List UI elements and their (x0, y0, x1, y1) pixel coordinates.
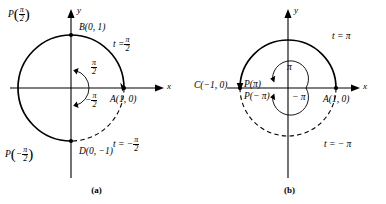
point-label-b: B(0, 1) (79, 23, 105, 33)
arc-label-text: t = − (113, 139, 133, 149)
x-axis (10, 84, 164, 91)
arc-label-text: t = (113, 39, 124, 49)
x-axis-label-a: x (167, 82, 171, 91)
param-point-label-neg-pi-over-2: P(−π2) (5, 146, 33, 163)
frac-den: 2 (124, 44, 130, 53)
panel-b: y x C(−1, 0) P(π) P(− π) A(1, 0) π − π t… (193, 0, 386, 204)
frac-num: π (133, 136, 139, 144)
inner-angle-label-pi-over-2: π2 (91, 59, 97, 76)
y-axis-label-b: y (294, 6, 298, 15)
frac-num: π (124, 36, 130, 44)
point-label-a: A(1, 0) (323, 95, 349, 105)
point-b-dot (69, 33, 73, 37)
frac-den: 2 (91, 100, 97, 109)
point-c-dot (238, 86, 242, 90)
frac-den: 2 (19, 14, 25, 23)
param-point-label-neg-pi: P(− π) (244, 92, 270, 102)
panel-a-caption: (a) (0, 185, 193, 195)
point-a-dot (122, 86, 126, 90)
frac-num: π (91, 92, 97, 100)
point-d-dot (69, 139, 73, 143)
point-label-d: D(0, −1) (79, 147, 113, 157)
frac-den: 2 (133, 144, 139, 153)
point-label-a: A(1, 0) (110, 95, 136, 105)
frac-num: π (19, 6, 25, 14)
inner-angle-label-pi: π (287, 63, 292, 73)
param-point-label-pi-over-2: P(π2) (8, 6, 30, 23)
x-axis-label-b: x (363, 82, 367, 91)
frac-den: 2 (91, 67, 97, 76)
frac-num: π (91, 59, 97, 67)
param-point-label-pi: P(π) (244, 80, 261, 90)
panel-b-graphics (193, 0, 386, 204)
panel-b-caption: (b) (193, 185, 386, 195)
unit-circle-figure: y x P(π2) B(0, 1) A(1, 0) D(0, −1) P(−π2… (0, 0, 386, 204)
arc-label-t-neg-pi-over-2: t = −π2 (113, 136, 139, 153)
point-label-c: C(−1, 0) (194, 81, 227, 91)
inner-angle-label-neg-pi: − π (292, 93, 306, 103)
arc-label-t-pi-over-2: t =π2 (113, 36, 130, 53)
arc-label-t-neg-pi: t = − π (324, 140, 351, 150)
inner-angle-arc-positive-a (73, 68, 89, 88)
y-axis-label-a: y (77, 6, 81, 15)
inner-angle-label-neg-pi-over-2: −π2 (85, 92, 97, 109)
arc-label-t-pi: t = π (332, 32, 351, 42)
point-a-dot (334, 86, 338, 90)
panel-a: y x P(π2) B(0, 1) A(1, 0) D(0, −1) P(−π2… (0, 0, 193, 204)
y-axis (284, 9, 291, 178)
